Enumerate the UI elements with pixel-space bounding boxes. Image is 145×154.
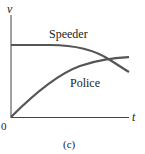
origin-label: 0 (1, 120, 7, 132)
speeder-label: Speeder (49, 27, 88, 41)
x-axis-label: t (132, 110, 136, 124)
police-label: Police (70, 76, 100, 90)
y-axis-label: v (7, 2, 13, 16)
velocity-time-graph: v t 0 Speeder Police (c) (0, 0, 145, 154)
figure-caption: (c) (63, 138, 76, 151)
